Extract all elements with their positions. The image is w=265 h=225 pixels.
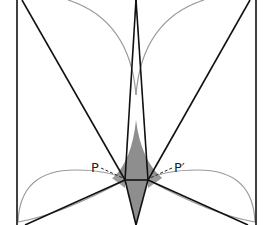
label-p: P [91, 160, 99, 175]
lower-right-line [148, 180, 248, 225]
right-diagonal [148, 0, 250, 180]
left-diagonal [22, 0, 125, 180]
upper-right-arc [136, 0, 204, 95]
lower-left-line [25, 180, 125, 225]
geometry-diagram: P P′ [0, 0, 265, 225]
upper-left-arc [68, 0, 136, 95]
lower-right-arc-inner [148, 180, 255, 222]
lower-right-arc [148, 170, 255, 222]
lower-left-arc [18, 170, 125, 222]
lower-left-arc-inner [18, 180, 125, 222]
label-p-prime: P′ [174, 160, 185, 175]
